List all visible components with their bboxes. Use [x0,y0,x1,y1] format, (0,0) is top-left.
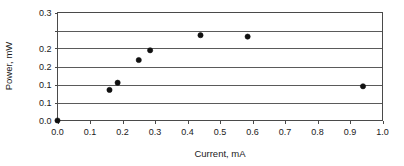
data-point [107,87,112,92]
data-point [148,48,153,53]
x-tick-label: 0.7 [279,127,292,137]
x-tick-label: 0.4 [181,127,194,137]
y-tick-label: 0.2 [39,62,52,72]
x-tick-label: 0.0 [51,127,64,137]
data-point [360,84,365,89]
x-tick-label: 0.3 [149,127,162,137]
y-tick-label: 0.2 [39,44,52,54]
gridlines-group [58,32,383,104]
x-tick-label: 0.1 [84,127,97,137]
chart-canvas: 0.00.10.10.20.20.3 0.00.10.20.30.40.50.6… [0,0,404,166]
data-point [198,33,203,38]
y-tick-label: 0.1 [39,80,52,90]
y-tick-label: 0.0 [39,116,52,126]
data-point [55,118,60,123]
x-tick-label: 0.2 [116,127,129,137]
data-points-group [55,33,366,124]
plot-border [58,13,383,121]
y-axis-title: Power, mW [3,42,14,91]
x-tick-label: 1.0 [376,127,389,137]
x-tick-label: 0.8 [311,127,324,137]
x-axis-title: Current, mA [194,148,246,159]
y-tick-label: 0.3 [39,8,52,18]
scatter-chart: 0.00.10.10.20.20.3 0.00.10.20.30.40.50.6… [0,0,404,166]
x-tick-label: 0.6 [246,127,259,137]
y-tick-labels-group: 0.00.10.10.20.20.3 [39,8,52,126]
data-point [115,80,120,85]
data-point [245,34,250,39]
x-tick-labels-group: 0.00.10.20.30.40.50.60.70.80.91.0 [51,127,389,137]
data-point [136,57,141,62]
plot-frame [58,13,383,121]
y-tick-label: 0.1 [39,98,52,108]
x-tick-label: 0.9 [344,127,357,137]
x-tick-label: 0.5 [214,127,227,137]
